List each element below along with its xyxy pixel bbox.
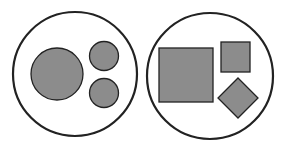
circles-group	[13, 12, 137, 136]
small-circle-bottom	[90, 79, 119, 108]
diagram-canvas	[0, 0, 291, 155]
small-square	[221, 42, 250, 72]
squares-group	[147, 13, 273, 139]
small-diamond	[218, 78, 258, 118]
large-circle	[31, 48, 83, 100]
large-square	[159, 48, 213, 102]
small-circle-top	[90, 42, 119, 71]
